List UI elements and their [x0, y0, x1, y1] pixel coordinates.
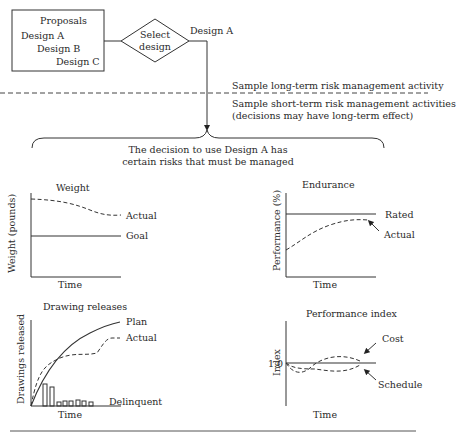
- drawings-series-delinquent: Delinquent: [109, 397, 162, 407]
- perf-index-chart-xlabel: Time: [313, 410, 337, 420]
- proposals-title: Proposals: [40, 16, 87, 26]
- endurance-series-actual: Actual: [384, 230, 415, 240]
- weight-series-actual: Actual: [126, 211, 157, 221]
- selected-design-label: Design A: [190, 26, 233, 36]
- drawing-releases-chart: [31, 320, 121, 406]
- decision-line-2: design: [139, 42, 171, 52]
- drawings-chart-title: Drawing releases: [43, 302, 127, 312]
- performance-index-chart: [286, 321, 376, 406]
- weight-chart: [31, 193, 121, 277]
- endurance-chart-ylabel: Performance (%): [272, 190, 282, 271]
- drawings-series-plan: Plan: [126, 317, 147, 327]
- endurance-chart-xlabel: Time: [313, 280, 337, 290]
- brace-text-2: certain risks that must be managed: [110, 157, 306, 167]
- brace-text-1: The decision to use Design A has: [110, 145, 306, 155]
- short-term-label-2: (decisions may have long-term effect): [232, 111, 413, 121]
- proposal-design-c: Design C: [56, 57, 100, 67]
- endurance-chart: [286, 193, 379, 277]
- long-term-label: Sample long-term risk management activit…: [232, 81, 444, 91]
- weight-chart-title: Weight: [56, 183, 90, 193]
- drawings-chart-xlabel: Time: [58, 410, 82, 420]
- perf-index-ytick: 1.0: [268, 359, 283, 369]
- endurance-chart-title: Endurance: [302, 180, 355, 190]
- decision-line-1: Select: [139, 30, 171, 40]
- perf-index-series-schedule: Schedule: [378, 380, 422, 390]
- drawings-series-actual: Actual: [126, 333, 157, 343]
- drawings-chart-ylabel: Drawings released: [16, 314, 26, 404]
- endurance-series-rated: Rated: [385, 210, 414, 220]
- perf-index-series-cost: Cost: [382, 334, 404, 344]
- short-term-label-1: Sample short-term risk management activi…: [232, 99, 456, 109]
- perf-index-chart-title: Performance index: [306, 309, 397, 319]
- proposal-design-b: Design B: [37, 44, 80, 54]
- weight-chart-ylabel: Weight (pounds): [7, 194, 17, 273]
- proposal-design-a: Design A: [21, 31, 64, 41]
- weight-series-goal: Goal: [126, 231, 148, 241]
- weight-chart-xlabel: Time: [58, 280, 82, 290]
